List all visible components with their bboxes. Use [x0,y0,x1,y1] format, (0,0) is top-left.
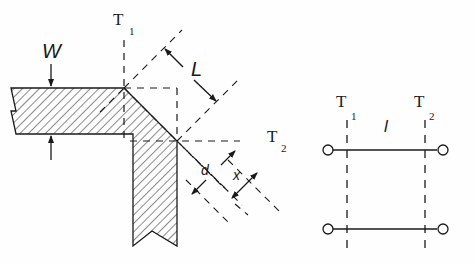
port-terminal-1a [323,145,333,155]
label-t2-sub: 2 [281,142,287,154]
label-t1: T [113,10,124,29]
port-terminal-1b [323,224,333,234]
mitered-bend-conductor [11,88,177,246]
port-terminal-2b [438,224,448,234]
label-tl-t2: T [414,92,425,111]
label-l: L [191,58,202,80]
port-terminal-2a [438,145,448,155]
label-w: W [42,40,63,62]
label-tl-t1: T [336,92,347,111]
label-line-length: l [384,117,389,136]
diagram-canvas: W T 1 L T 2 d x T 1 T 2 l [0,0,475,264]
label-tl-t1-sub: 1 [351,110,357,122]
tl-model [323,145,448,234]
d-dimension [192,151,235,194]
label-t1-sub: 1 [129,25,135,37]
label-x: x [232,167,241,183]
label-d: d [201,162,210,178]
label-t2: T [267,127,278,146]
label-tl-t2-sub: 2 [429,110,435,122]
